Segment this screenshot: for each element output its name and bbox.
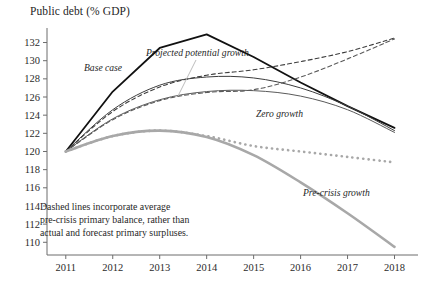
series-annotation-label: Zero growth	[256, 108, 303, 119]
x-tick-label: 2012	[102, 262, 123, 273]
y-tick-label: 112	[25, 219, 40, 230]
series-annotation-label: Base case	[84, 62, 123, 73]
x-axis: 20112012201320142015201620172018	[47, 255, 418, 273]
x-tick-label: 2016	[290, 262, 311, 273]
public-debt-chart-figure: Public debt (% GDP) 11011211411611812012…	[0, 0, 428, 286]
y-tick-label: 116	[25, 182, 40, 193]
y-tick-label: 118	[25, 164, 40, 175]
y-tick-label: 126	[24, 92, 40, 103]
y-tick-label: 122	[24, 128, 40, 139]
y-tick-label: 130	[24, 55, 40, 66]
chart-note-line: pre-crisis primary balance, rather than	[40, 214, 189, 225]
chart-note-line: Dashed lines incorporate average	[40, 201, 171, 212]
x-tick-label: 2017	[337, 262, 358, 273]
x-tick-label: 2014	[196, 262, 218, 273]
y-tick-label: 110	[25, 237, 40, 248]
x-tick-label: 2015	[243, 262, 264, 273]
y-tick-label: 128	[24, 73, 40, 84]
chart-note-line: actual and forecast primary surpluses.	[40, 227, 188, 238]
series-annotation-label: Pre-crisis growth	[302, 187, 370, 198]
x-tick-label: 2013	[149, 262, 170, 273]
x-tick-label: 2011	[55, 262, 76, 273]
chart-plot-area: 110112114116118120122124126128130132 201…	[0, 0, 428, 286]
chart-annotations-group: Base caseProjected potential growthZero …	[84, 47, 370, 198]
x-axis-ticks: 20112012201320142015201620172018	[55, 255, 405, 273]
chart-note: Dashed lines incorporate averagepre-cris…	[40, 201, 189, 238]
series-annotation-label: Projected potential growth	[145, 47, 249, 58]
y-tick-label: 120	[24, 146, 40, 157]
x-tick-label: 2018	[384, 262, 405, 273]
series-line	[66, 90, 395, 151]
y-tick-label: 124	[24, 110, 41, 121]
y-tick-label: 132	[24, 37, 40, 48]
y-tick-label: 114	[25, 201, 41, 212]
